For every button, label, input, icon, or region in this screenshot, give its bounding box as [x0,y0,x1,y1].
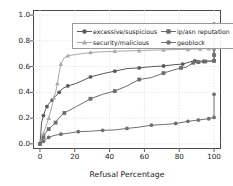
legend-row: security/malicious geoblock [76,37,233,48]
x-tick-label: 20 [62,152,88,161]
x-axis-label: Refusal Percentage [33,170,221,179]
y-tick-label: 0.4 [2,87,30,96]
legend-marker-circle-icon [160,37,177,48]
x-tick-label: 0 [27,152,53,161]
legend-row: excessive/suspicious ip/asn reputation [76,26,233,37]
legend-label: geoblock [177,37,205,48]
legend-marker-circle-icon [76,26,93,37]
y-tick-label: 0.8 [2,36,30,45]
y-axis-tick-labels: 0.00.20.40.60.81.0 [0,10,30,149]
x-axis-tick-labels: 020406080100 [33,152,221,164]
y-tick-label: 0.6 [2,62,30,71]
figure: 0.00.20.40.60.81.0 Cumulative fraction o… [0,0,233,186]
plot-area: excessive/suspicious ip/asn reputation [33,10,221,149]
legend-label: excessive/suspicious [93,26,157,37]
legend-marker-square-icon [160,26,177,37]
legend-item-ip-asn-reputation[interactable]: ip/asn reputation [160,26,233,37]
legend-label: security/malicious [93,37,149,48]
x-tick-label: 40 [97,152,123,161]
y-tick-label: 1.0 [2,10,30,19]
legend-item-excessive-suspicious[interactable]: excessive/suspicious [76,26,160,37]
legend-item-geoblock[interactable]: geoblock [160,37,233,48]
x-tick-label: 60 [131,152,157,161]
legend-label: ip/asn reputation [177,26,230,37]
legend: excessive/suspicious ip/asn reputation [72,23,233,49]
x-tick-label: 100 [201,152,227,161]
y-tick-label: 0.2 [2,113,30,122]
legend-item-security-malicious[interactable]: security/malicious [76,37,160,48]
legend-marker-triangle-icon [76,37,93,48]
y-tick-label: 0.0 [2,139,30,148]
x-tick-label: 80 [166,152,192,161]
